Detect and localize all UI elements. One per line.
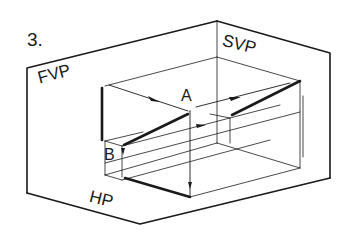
projection-diagram: 3. FVP SVP HP A B	[0, 0, 346, 234]
small-box	[105, 105, 300, 180]
hp-plane	[27, 178, 330, 224]
point-a-label: A	[181, 88, 192, 104]
object-lines	[102, 81, 300, 197]
inner-box	[105, 57, 303, 197]
diagram-lines	[0, 0, 346, 234]
point-b-label: B	[104, 147, 115, 163]
figure-number: 3.	[27, 30, 43, 49]
